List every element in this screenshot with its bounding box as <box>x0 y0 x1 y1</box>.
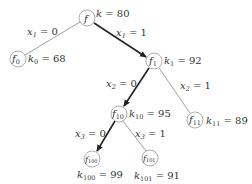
edge-label-f-f1: x1 = 1 <box>116 27 147 40</box>
edge-label-f10-f100: x3 = 0 <box>75 128 106 141</box>
node-k-label: k0 = 68 <box>28 53 66 66</box>
node-k-label: k100 = 99 <box>77 169 123 182</box>
node-f0: f0 k0 = 68 <box>10 51 66 67</box>
node-k-label: k = 80 <box>96 8 130 19</box>
edge-label-f-f0: x1 = 0 <box>27 26 58 39</box>
node-f101: f101 k101 = 91 <box>134 150 180 183</box>
node-f1: f1 k1 = 92 <box>146 53 202 69</box>
edge-label-f1-f11: x2 = 1 <box>180 80 211 93</box>
node-k-label: k101 = 91 <box>134 170 180 183</box>
node-k-label: k11 = 89 <box>206 115 248 128</box>
node-k-label: k1 = 92 <box>164 55 202 68</box>
node-f11: f11 k11 = 89 <box>187 112 248 128</box>
node-f100: f100 k100 = 99 <box>77 151 123 182</box>
node-k-label: k10 = 95 <box>129 108 171 121</box>
edge-labels: x1 = 0 x1 = 1 x2 = 0 x2 = 1 x3 = 0 x3 = … <box>27 26 211 141</box>
edge-label-f10-f101: x3 = 1 <box>135 128 166 141</box>
node-f10: f10 k10 = 95 <box>111 106 171 122</box>
edge-label-f1-f10: x2 = 0 <box>106 78 137 91</box>
decision-tree-diagram: x1 = 0 x1 = 1 x2 = 0 x2 = 1 x3 = 0 x3 = … <box>0 0 252 184</box>
node-f: f k = 80 <box>79 8 130 26</box>
